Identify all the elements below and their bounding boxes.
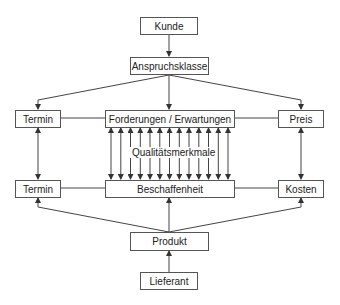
node-kunde: Kunde xyxy=(140,17,198,35)
node-lieferant: Lieferant xyxy=(140,272,198,290)
qualitaetsmerkmale-label: Qualitätsmerkmale xyxy=(130,147,217,158)
node-termin-top: Termin xyxy=(15,110,61,128)
node-kunde-label: Kunde xyxy=(155,21,184,32)
node-termin-bottom: Termin xyxy=(15,180,61,198)
node-anspruchsklasse-label: Anspruchsklasse xyxy=(132,61,208,72)
node-termin-top-label: Termin xyxy=(23,114,53,125)
node-kosten-label: Kosten xyxy=(285,184,316,195)
node-forderungen-label: Forderungen / Erwartungen xyxy=(109,114,231,125)
node-lieferant-label: Lieferant xyxy=(150,276,189,287)
node-anspruchsklasse: Anspruchsklasse xyxy=(130,57,209,75)
node-kosten: Kosten xyxy=(278,180,324,198)
node-produkt: Produkt xyxy=(130,232,209,251)
node-beschaffenheit: Beschaffenheit xyxy=(105,180,235,198)
node-beschaffenheit-label: Beschaffenheit xyxy=(137,184,203,195)
node-forderungen-erwartungen: Forderungen / Erwartungen xyxy=(105,110,235,128)
node-preis-label: Preis xyxy=(290,114,313,125)
node-termin-bottom-label: Termin xyxy=(23,184,53,195)
node-preis: Preis xyxy=(278,110,324,128)
node-produkt-label: Produkt xyxy=(152,236,186,247)
